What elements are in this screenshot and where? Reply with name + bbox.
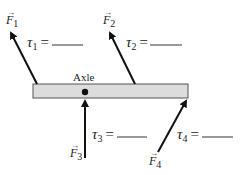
force-label-f4: F4 → [148, 149, 161, 170]
svg-text:τ2=: τ2= [126, 34, 149, 52]
svg-text:τ3=: τ3= [92, 126, 115, 144]
beam [33, 84, 188, 98]
svg-text:→: → [71, 141, 79, 150]
force-label-f1: F1 → [5, 8, 18, 29]
svg-text:τ1=: τ1= [27, 34, 50, 52]
svg-text:→: → [104, 8, 112, 17]
svg-text:→: → [150, 149, 158, 158]
force-label-f2: F2 → [102, 8, 115, 29]
torque-label-1: τ1= [27, 34, 83, 52]
svg-text:τ4=: τ4= [177, 126, 200, 144]
axle-dot [82, 89, 88, 95]
torque-diagram: Axle F1 → F2 → F3 → F4 → τ1= τ2= τ3= τ4= [0, 0, 245, 175]
torque-label-4: τ4= [177, 126, 233, 144]
axle-label: Axle [73, 71, 95, 83]
svg-text:→: → [7, 8, 15, 17]
force-label-f3: F3 → [69, 141, 82, 162]
torque-label-3: τ3= [92, 126, 147, 144]
torque-label-2: τ2= [126, 34, 182, 52]
